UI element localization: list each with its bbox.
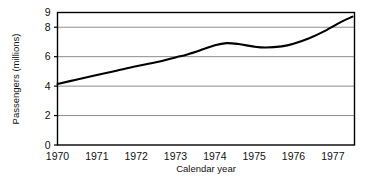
passengers-line-chart: 024689 19701971197219731974197519761977 …: [0, 0, 372, 179]
y-tick-label-8: 8: [45, 21, 51, 33]
y-tick-label-0: 0: [45, 139, 51, 151]
y-tick-label-6: 6: [45, 50, 51, 62]
x-tick-label-1973: 1973: [164, 150, 188, 162]
x-tick-label-1970: 1970: [46, 150, 70, 162]
x-tick-label-1974: 1974: [203, 150, 227, 162]
y-tick-label-2: 2: [45, 109, 51, 121]
y-axis-title: Passengers (millions): [10, 34, 21, 125]
y-tick-label-4: 4: [45, 80, 51, 92]
y-tick-label-9: 9: [45, 6, 51, 18]
x-tick-label-1975: 1975: [243, 150, 267, 162]
x-tick-label-1972: 1972: [124, 150, 148, 162]
x-axis-title: Calendar year: [176, 163, 236, 174]
x-tick-label-1977: 1977: [321, 150, 345, 162]
x-tick-label-1976: 1976: [282, 150, 306, 162]
chart-figure: 024689 19701971197219731974197519761977 …: [0, 0, 372, 179]
x-tick-label-1971: 1971: [85, 150, 109, 162]
